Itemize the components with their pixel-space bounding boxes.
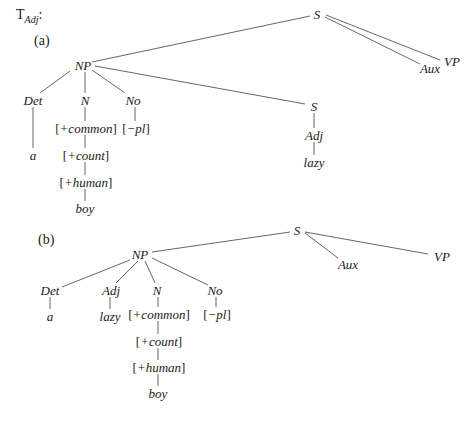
- feature-count-b-text: +count: [140, 334, 178, 349]
- feature-human-b-text: +human: [137, 360, 181, 375]
- node-det-b: Det: [41, 284, 60, 297]
- leaf-a: a: [30, 149, 37, 162]
- node-s-b: S: [294, 224, 301, 237]
- feature-pl-b: [−pl]: [203, 308, 231, 321]
- node-no: No: [125, 94, 140, 107]
- node-n: N: [81, 94, 90, 107]
- tree-edges: [0, 0, 474, 424]
- node-aux-b: Aux: [338, 258, 358, 271]
- node-s-embedded: S: [311, 100, 318, 113]
- feature-human-text: +human: [64, 175, 108, 190]
- feature-pl: [−pl]: [122, 122, 150, 135]
- node-np: NP: [75, 59, 92, 72]
- feature-common-b: [+common]: [128, 308, 190, 321]
- leaf-boy: boy: [76, 202, 95, 215]
- node-aux: Aux: [420, 62, 440, 75]
- node-np-b: NP: [132, 248, 149, 261]
- feature-common-b-text: +common: [133, 307, 186, 322]
- node-s: S: [314, 8, 321, 21]
- feature-count-text: +count: [67, 148, 105, 163]
- node-vp: VP: [444, 55, 460, 68]
- feature-pl-text: −pl: [127, 121, 146, 136]
- node-vp-b: VP: [434, 250, 450, 263]
- node-n-b: N: [153, 284, 162, 297]
- feature-count: [+count]: [63, 149, 109, 162]
- feature-pl-b-text: −pl: [208, 307, 227, 322]
- leaf-boy-b: boy: [149, 387, 168, 400]
- leaf-a-b: a: [47, 310, 54, 323]
- feature-common-text: +common: [60, 121, 113, 136]
- part-b-label: (b): [38, 232, 54, 248]
- feature-common: [+common]: [55, 122, 117, 135]
- leaf-lazy-b: lazy: [100, 310, 121, 323]
- part-a-label: (a): [34, 33, 50, 49]
- feature-count-b: [+count]: [136, 335, 182, 348]
- node-adj-b: Adj: [102, 284, 120, 297]
- node-no-b: No: [207, 284, 222, 297]
- node-adj: Adj: [305, 129, 323, 142]
- node-det: Det: [24, 94, 43, 107]
- leaf-lazy: lazy: [304, 156, 325, 169]
- feature-human-b: [+human]: [133, 361, 186, 374]
- feature-human: [+human]: [60, 176, 113, 189]
